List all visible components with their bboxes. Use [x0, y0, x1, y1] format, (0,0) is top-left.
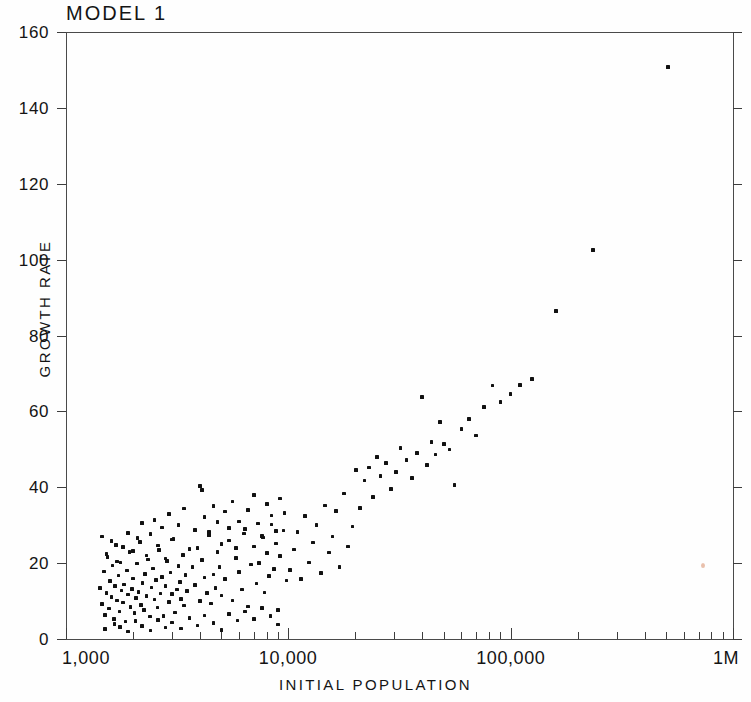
data-point: [342, 492, 346, 496]
y-tick-right-120: [733, 184, 742, 185]
data-point: [405, 458, 409, 462]
data-point: [110, 595, 114, 599]
data-point: [292, 548, 296, 552]
data-point: [156, 544, 160, 548]
data-point: [282, 529, 286, 533]
data-point: [103, 613, 107, 617]
x-tick-40000: [422, 632, 423, 639]
y-tick-140: [57, 108, 66, 109]
data-point: [118, 625, 122, 629]
y-tick-label-0: 0: [0, 631, 49, 648]
data-point: [272, 567, 276, 571]
scan-artifact-speck: [701, 563, 705, 568]
data-point: [530, 377, 534, 381]
data-point: [269, 614, 273, 618]
data-point: [243, 610, 247, 614]
y-tick-right-20: [733, 563, 742, 564]
data-point: [499, 400, 503, 404]
data-point: [319, 571, 323, 575]
data-point: [278, 554, 282, 558]
data-point: [178, 580, 182, 584]
data-point: [270, 514, 274, 518]
data-point: [102, 570, 106, 574]
data-point: [288, 568, 292, 572]
data-point: [218, 565, 222, 569]
data-point: [181, 553, 185, 557]
data-point: [139, 603, 143, 607]
data-point: [311, 541, 315, 545]
data-point: [125, 569, 129, 573]
x-tick-50000: [444, 632, 445, 639]
data-point: [212, 573, 216, 577]
data-point: [256, 522, 260, 526]
data-point: [137, 590, 141, 594]
y-tick-label-120: 120: [0, 176, 49, 193]
data-point: [482, 405, 486, 409]
data-point: [173, 611, 177, 615]
data-point: [100, 535, 104, 539]
data-point: [113, 584, 117, 588]
data-point: [121, 545, 125, 549]
data-point: [453, 483, 457, 487]
data-point: [448, 448, 452, 452]
data-point: [261, 536, 265, 540]
x-tick-3000: [172, 632, 173, 639]
data-point: [200, 488, 204, 492]
data-point: [249, 563, 253, 567]
data-point: [179, 627, 183, 631]
data-point: [303, 514, 307, 518]
y-tick-0: [57, 639, 66, 640]
data-point: [175, 588, 179, 592]
data-point: [148, 615, 152, 619]
x-tick-label-1000: 1,000: [62, 649, 110, 667]
data-point: [154, 578, 158, 582]
x-tick-1000: [66, 628, 67, 639]
data-point: [260, 606, 264, 610]
bottom-axis-line: [66, 639, 733, 640]
x-tick-300000: [617, 632, 618, 639]
x-tick-1000000: [733, 628, 734, 639]
scatter-plot-figure: MODEL 1 020406080100120140160 1,00010,00…: [0, 0, 751, 702]
data-point: [134, 619, 138, 623]
x-tick-200000: [578, 632, 579, 639]
y-tick-label-160: 160: [0, 24, 49, 41]
x-tick-80000: [489, 632, 490, 639]
data-point: [130, 587, 134, 591]
data-point: [315, 523, 319, 527]
data-point: [177, 564, 181, 568]
data-point: [170, 621, 174, 625]
data-point: [115, 560, 119, 564]
x-tick-70000: [476, 632, 477, 639]
x-tick-20000: [355, 632, 356, 639]
data-point: [126, 531, 130, 535]
data-point: [164, 584, 168, 588]
data-point: [179, 597, 183, 601]
x-tick-500000: [666, 632, 667, 639]
data-point: [223, 577, 227, 581]
data-point: [237, 520, 241, 524]
data-point: [274, 542, 278, 546]
data-point: [425, 463, 429, 467]
data-point: [209, 602, 213, 606]
y-tick-right-40: [733, 487, 742, 488]
data-point: [131, 549, 135, 553]
y-tick-60: [57, 411, 66, 412]
data-point: [124, 620, 128, 624]
data-point: [267, 574, 271, 578]
data-point: [367, 466, 371, 470]
x-tick-700000: [699, 632, 700, 639]
data-point: [196, 546, 200, 550]
data-point: [438, 420, 442, 424]
data-point: [212, 621, 216, 625]
x-tick-5000: [221, 632, 222, 639]
data-point: [149, 532, 153, 536]
data-point: [240, 588, 244, 592]
data-point: [142, 608, 146, 612]
data-point: [198, 484, 202, 488]
x-tick-800000: [711, 632, 712, 639]
data-point: [460, 427, 464, 431]
data-point: [394, 470, 398, 474]
data-point: [196, 624, 200, 628]
data-point: [216, 550, 220, 554]
data-point: [200, 558, 204, 562]
